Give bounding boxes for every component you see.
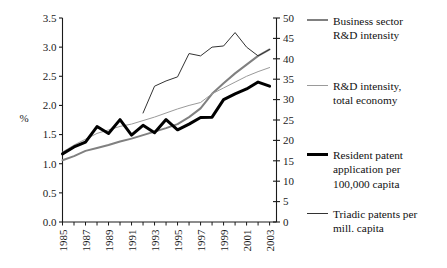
- legend-label-total-economy: R&D intensity,total economy: [333, 79, 445, 108]
- y-tick-label-right: 20: [283, 134, 295, 146]
- y-tick-label-left: 0.0: [43, 216, 57, 228]
- legend-label-triadic-patents: Triadic patents permill. capita: [333, 207, 445, 236]
- legend-label-line: Business sector: [333, 14, 445, 28]
- x-tick-label: 1995: [172, 229, 184, 252]
- legend-label-line: total economy: [333, 93, 445, 107]
- y-tick-label-left: 2.5: [43, 70, 57, 82]
- series-line-resident-patent-application-per-100-000-capita: [63, 82, 270, 154]
- y-tick-label-right: 40: [283, 53, 295, 65]
- y-tick-label-left: 3.0: [43, 41, 57, 53]
- x-tick-label: 1989: [103, 229, 115, 252]
- y-tick-label-left: 0.5: [43, 187, 57, 199]
- x-tick-label: 1991: [126, 230, 138, 252]
- series-line-r-d-intensity-total-economy: [63, 68, 270, 153]
- y-tick-label-right: 0: [283, 216, 289, 228]
- y-tick-label-right: 50: [283, 12, 295, 24]
- legend-label-resident-patent: Resident patentapplication per100,000 ca…: [333, 148, 445, 191]
- legend-label-line: R&D intensity: [333, 28, 445, 42]
- y-tick-label-right: 30: [283, 93, 295, 105]
- x-tick-label: 2001: [241, 230, 253, 252]
- y-tick-label-left: 1.5: [43, 128, 57, 140]
- series-line-business-sector-r-d-intensity: [63, 49, 270, 160]
- y-tick-label-right: 5: [283, 195, 289, 207]
- y-tick-label-right: 35: [283, 73, 295, 85]
- x-tick-label: 1987: [80, 229, 92, 252]
- y-tick-label-right: 10: [283, 175, 295, 187]
- legend-label-line: Triadic patents per: [333, 207, 445, 221]
- y-axis-title-left: %: [19, 112, 28, 124]
- legend-label-line: application per: [333, 162, 445, 176]
- y-tick-label-right: 25: [283, 114, 295, 126]
- x-tick-label: 1999: [218, 229, 230, 252]
- legend-swatch-resident-patent: [307, 153, 328, 156]
- x-tick-label: 1997: [195, 229, 207, 252]
- y-tick-label-left: 3.5: [43, 12, 57, 24]
- y-tick-label-left: 2.0: [43, 99, 57, 111]
- x-tick-label: 2003: [264, 229, 276, 252]
- plot-layer: 0.00.51.01.52.02.53.03.50510152025303540…: [19, 12, 294, 252]
- chart-figure: 0.00.51.01.52.02.53.03.50510152025303540…: [0, 0, 447, 268]
- legend-label-line: 100,000 capita: [333, 177, 445, 191]
- x-tick-label: 1985: [57, 229, 69, 252]
- legend-label-line: Resident patent: [333, 148, 445, 162]
- legend-label-business-sector: Business sectorR&D intensity: [333, 14, 445, 43]
- legend-swatch-total-economy: [307, 85, 328, 86]
- x-tick-label: 1993: [149, 229, 161, 252]
- legend-swatch-business-sector: [307, 19, 328, 21]
- legend-swatch-triadic-patents: [307, 213, 328, 214]
- y-tick-label-right: 15: [283, 155, 295, 167]
- y-tick-label-right: 45: [283, 32, 295, 44]
- legend-label-line: R&D intensity,: [333, 79, 445, 93]
- y-tick-label-left: 1.0: [43, 158, 57, 170]
- legend-label-line: mill. capita: [333, 221, 445, 235]
